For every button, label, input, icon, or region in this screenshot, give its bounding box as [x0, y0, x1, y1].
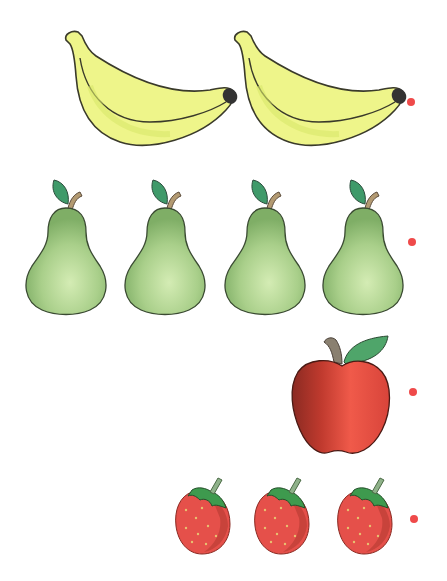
strawberry-icon [251, 474, 315, 558]
row-strawberries: strawberries [0, 470, 447, 581]
banana-icon [229, 26, 409, 154]
row-apple: apple [0, 330, 447, 470]
pear-icon [317, 176, 409, 318]
answer-dot[interactable] [408, 238, 416, 246]
row-pears: pears [0, 160, 447, 330]
apple-icon [290, 332, 394, 458]
banana-icon [60, 26, 240, 154]
pear-icon [20, 176, 112, 318]
pear-icon [219, 176, 311, 318]
pear-icon [119, 176, 211, 318]
strawberry-icon [172, 474, 236, 558]
answer-dot[interactable] [409, 388, 417, 396]
answer-dot[interactable] [410, 515, 418, 523]
row-bananas: bananas [0, 0, 447, 160]
strawberry-icon [334, 474, 398, 558]
answer-dot[interactable] [407, 98, 415, 106]
